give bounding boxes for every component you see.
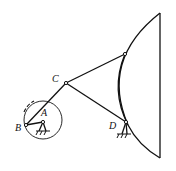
joint-b — [24, 123, 27, 126]
linkage-drawing — [0, 0, 176, 171]
link-cd — [66, 83, 126, 122]
mechanism-diagram: A B C D — [0, 0, 176, 171]
joint-d — [124, 120, 127, 123]
rocker-arc-edge — [119, 13, 160, 158]
label-c: C — [52, 74, 59, 84]
link-c-top — [66, 54, 125, 83]
label-b: B — [15, 123, 21, 133]
joint-a — [41, 120, 44, 123]
label-a: A — [41, 108, 47, 118]
label-d: D — [109, 121, 116, 131]
joint-top — [123, 52, 126, 55]
joint-c — [64, 81, 67, 84]
